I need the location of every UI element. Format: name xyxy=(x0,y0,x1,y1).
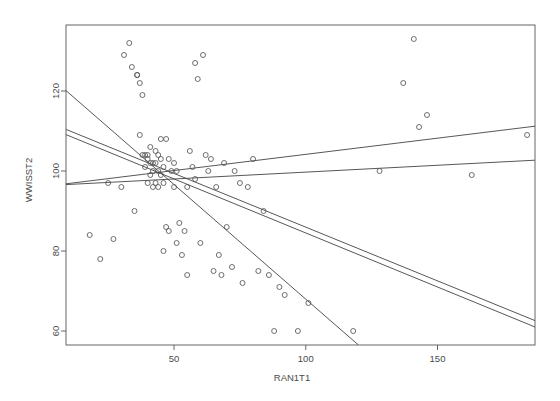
y-tick-label: 80 xyxy=(50,246,61,257)
y-axis-title: WWISST2 xyxy=(23,158,34,202)
plot-canvas: 50100150 6080100120 RAN1T1 WWISST2 xyxy=(0,0,560,401)
x-tick-label: 100 xyxy=(298,353,314,364)
y-tick-label: 120 xyxy=(50,83,61,99)
scatter-plot-figure: 50100150 6080100120 RAN1T1 WWISST2 xyxy=(0,0,560,401)
y-tick-label: 60 xyxy=(50,326,61,337)
x-axis-title: RAN1T1 xyxy=(274,372,310,383)
x-tick-label: 50 xyxy=(169,353,180,364)
figure-background xyxy=(0,0,560,401)
y-tick-label: 100 xyxy=(50,163,61,179)
x-tick-label: 150 xyxy=(430,353,446,364)
